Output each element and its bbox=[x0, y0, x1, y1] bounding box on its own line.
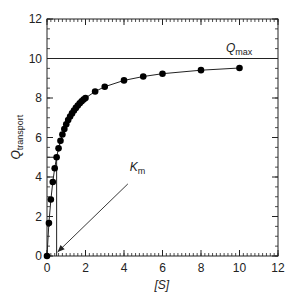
x-tick-label: 10 bbox=[233, 261, 247, 275]
series-line bbox=[47, 68, 240, 256]
data-point bbox=[57, 138, 64, 145]
data-point bbox=[46, 220, 53, 227]
data-point bbox=[159, 70, 166, 77]
data-point bbox=[55, 145, 62, 152]
x-axis-title-text: [S] bbox=[154, 278, 170, 292]
reference-lines bbox=[47, 59, 272, 257]
data-point bbox=[53, 154, 60, 161]
data-point bbox=[51, 165, 58, 172]
x-tick-label: 6 bbox=[159, 261, 166, 275]
y-tick-labels: 024681012 bbox=[29, 12, 43, 263]
y-tick-label: 8 bbox=[35, 91, 42, 105]
data-curve bbox=[47, 68, 240, 256]
data-point bbox=[92, 88, 99, 95]
y-axis-title-sub: transport bbox=[15, 114, 25, 150]
y-tick-label: 6 bbox=[35, 131, 42, 145]
x-tick-label: 12 bbox=[271, 261, 285, 275]
y-axis-title-main: Q bbox=[9, 150, 23, 159]
data-point bbox=[44, 253, 51, 260]
km-arrow bbox=[58, 184, 128, 252]
data-point bbox=[49, 179, 56, 186]
data-point bbox=[140, 73, 147, 80]
km-sub: m bbox=[138, 166, 146, 176]
data-point bbox=[236, 65, 243, 72]
x-tick-label: 2 bbox=[82, 261, 89, 275]
chart-canvas: 024681012 024681012 Qmax Km [S] Qtranspo… bbox=[0, 0, 296, 300]
data-point bbox=[101, 83, 108, 90]
qmax-sub: max bbox=[235, 47, 253, 57]
data-point bbox=[198, 67, 205, 74]
x-tick-label: 0 bbox=[44, 261, 51, 275]
qmax-main: Q bbox=[226, 41, 235, 55]
data-point bbox=[48, 196, 55, 203]
y-tick-label: 2 bbox=[35, 210, 42, 224]
y-axis-title: Qtransport bbox=[9, 114, 25, 159]
y-tick-label: 4 bbox=[35, 170, 42, 184]
data-point bbox=[121, 77, 128, 84]
x-axis-title: [S] bbox=[154, 278, 170, 292]
km-annotation: Km bbox=[130, 160, 146, 176]
qmax-annotation: Qmax bbox=[226, 41, 253, 57]
x-tick-labels: 024681012 bbox=[44, 261, 285, 275]
series-points bbox=[44, 65, 243, 260]
x-tick-label: 4 bbox=[121, 261, 128, 275]
y-tick-label: 10 bbox=[29, 52, 43, 66]
x-tick-label: 8 bbox=[198, 261, 205, 275]
data-point bbox=[82, 95, 89, 102]
y-tick-label: 0 bbox=[35, 249, 42, 263]
y-tick-label: 12 bbox=[29, 12, 43, 26]
km-arrow-shaft bbox=[58, 184, 128, 252]
